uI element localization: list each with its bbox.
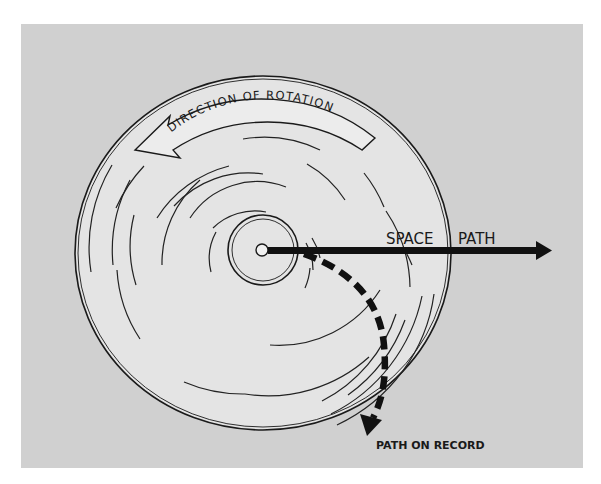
center-hole [256,244,268,256]
path-on-record-label: PATH ON RECORD [376,439,485,452]
space-path-label-path: PATH [458,230,496,248]
space-path-label-space: SPACE [386,230,434,248]
record-diagram: DIRECTION OF ROTATION SPACE PATH PATH ON… [0,0,601,484]
